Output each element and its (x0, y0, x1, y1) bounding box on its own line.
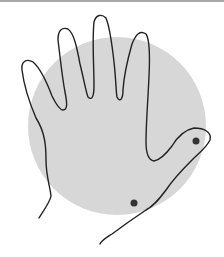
background-circle (28, 37, 206, 215)
hand-circle-diagram: Hand outline over circle with two marked… (0, 0, 224, 257)
thumb-tip-point (193, 138, 200, 145)
wrist-point (131, 200, 138, 207)
